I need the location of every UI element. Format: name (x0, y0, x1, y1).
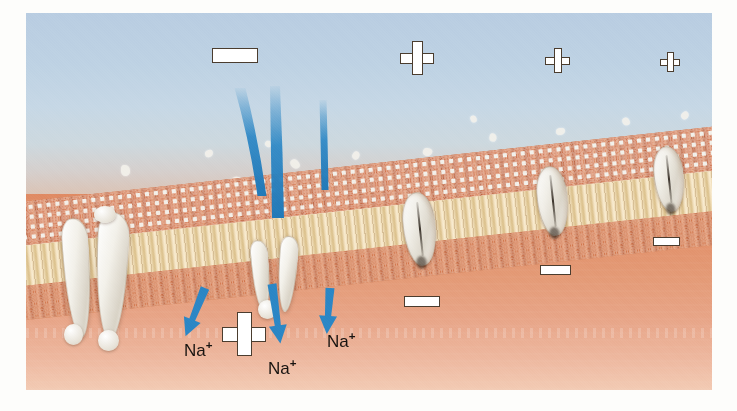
charge-symbol-plus (545, 48, 570, 73)
figure-canvas: Na+Na+Na+ (0, 0, 737, 411)
sodium-symbol: Na (327, 332, 349, 351)
sodium-charge-superscript: + (206, 339, 213, 351)
arrow-center (263, 283, 289, 345)
sodium-symbol: Na (184, 341, 206, 360)
plus-center-patch (413, 54, 422, 63)
charge-symbol-minus (404, 296, 440, 307)
plus-center-patch (238, 328, 251, 341)
ion-flow-arrow-layer (26, 13, 712, 390)
charge-symbol-minus (653, 237, 680, 246)
illustration-plate: Na+Na+Na+ (26, 13, 712, 390)
sodium-ion-label: Na+ (184, 340, 212, 359)
sodium-symbol: Na (268, 359, 290, 378)
charge-symbol-plus (222, 312, 266, 356)
charge-symbol-plus (660, 52, 680, 72)
sodium-ion-label: Na+ (327, 331, 355, 350)
sodium-charge-superscript: + (290, 357, 297, 369)
arrow-right (318, 287, 339, 334)
sodium-ion-label: Na+ (268, 358, 296, 377)
charge-symbol-minus (540, 265, 571, 275)
charge-symbol-plus (400, 41, 434, 75)
plus-center-patch (555, 58, 561, 64)
plus-center-patch (668, 60, 673, 65)
arrow-left (177, 285, 213, 340)
sodium-charge-superscript: + (349, 330, 356, 342)
charge-symbol-minus (212, 48, 258, 63)
